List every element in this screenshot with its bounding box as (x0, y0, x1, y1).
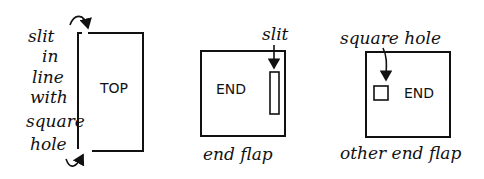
other-end-flap-box-label: END (404, 85, 434, 101)
other-end-flap-caption: other end flap (340, 143, 461, 163)
annotation-line-4: with (30, 87, 68, 107)
other-end-flap-panel: END square hole other end flap (340, 28, 461, 163)
top-panel: TOP slit in line with square hole (26, 16, 143, 166)
square-hole-callout: square hole (340, 28, 441, 48)
slit-rect (270, 72, 279, 114)
diagram-canvas: TOP slit in line with square hole END sl… (0, 0, 484, 179)
annotation-line-5: square (26, 111, 85, 131)
annotation-line-2: in (42, 46, 58, 66)
annotation-line-1: slit (28, 26, 55, 46)
top-box-label: TOP (99, 80, 128, 96)
annotation-line-3: line (32, 67, 64, 87)
top-arrow-icon (70, 16, 88, 28)
annotation-line-6: hole (30, 134, 67, 154)
slit-callout: slit (262, 24, 289, 44)
end-flap-panel: END slit end flap (201, 24, 289, 164)
end-flap-caption: end flap (203, 144, 273, 164)
bottom-arrow-icon (66, 155, 83, 166)
end-flap-box-label: END (216, 81, 246, 97)
square-hole-rect (374, 86, 388, 100)
